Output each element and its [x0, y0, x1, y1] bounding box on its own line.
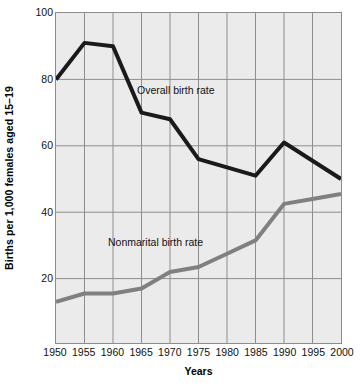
y-tick-label-80: 80 [19, 73, 53, 85]
x-tick-label-1955: 1955 [72, 346, 95, 358]
x-tick-label-1995: 1995 [302, 346, 325, 358]
x-tick-label-1975: 1975 [187, 346, 210, 358]
plot-canvas [56, 13, 341, 343]
chart-figure: Births per 1,000 females aged 15–19 100 … [0, 0, 361, 388]
y-tick-label-40: 40 [19, 206, 53, 218]
x-tick-label-1950: 1950 [43, 346, 66, 358]
y-tick-label-100: 100 [19, 6, 53, 18]
x-tick-label-1990: 1990 [273, 346, 296, 358]
x-tick-label-2000: 2000 [330, 346, 353, 358]
y-axis-title-text: Births per 1,000 females aged 15–19 [3, 86, 15, 270]
y-axis-tick-labels: 100 80 60 40 20 [16, 0, 53, 388]
x-axis-tick-labels: 1950 1955 1960 1965 1970 1975 1980 1985 … [0, 346, 361, 362]
x-tick-label-1980: 1980 [216, 346, 239, 358]
x-tick-label-1985: 1985 [244, 346, 267, 358]
x-tick-label-1970: 1970 [158, 346, 181, 358]
plot-area: Overall birth rate Nonmarital birth rate [55, 12, 342, 344]
x-axis-title: Years [55, 365, 342, 377]
series-label-nonmarital: Nonmarital birth rate [108, 236, 203, 248]
x-tick-label-1965: 1965 [129, 346, 152, 358]
y-tick-label-60: 60 [19, 139, 53, 151]
series-label-overall: Overall birth rate [137, 84, 215, 96]
y-tick-label-20: 20 [19, 272, 53, 284]
x-tick-label-1960: 1960 [101, 346, 124, 358]
